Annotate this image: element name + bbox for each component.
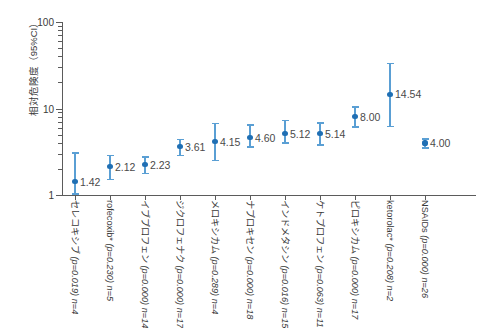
- x-axis-line: [62, 195, 476, 196]
- data-point-value-label: 8.00: [360, 111, 380, 123]
- data-point-marker: [142, 162, 147, 167]
- x-category-name: NSAIDs: [420, 200, 430, 233]
- data-point-group: 5.12: [279, 22, 291, 195]
- error-bar-cap-upper: [247, 124, 254, 125]
- data-point-value-label: 2.12: [115, 161, 135, 173]
- data-point-value-label: 4.15: [220, 136, 240, 148]
- data-point-value-label: 4.60: [255, 132, 275, 144]
- y-tick-minor: [58, 30, 62, 31]
- error-bar-cap-upper: [387, 63, 394, 64]
- error-bar-cap-lower: [72, 193, 79, 194]
- data-point-group: 8.00: [349, 22, 361, 195]
- x-category-label: インドメタシン (p=0.016) n=15: [279, 200, 289, 310]
- x-category-stats: (p=0.016) n=15: [280, 263, 290, 328]
- y-tick-minor: [58, 82, 62, 83]
- data-point-value-label: 2.23: [150, 159, 170, 171]
- data-point-value-label: 3.61: [185, 141, 205, 153]
- error-bar-cap-upper: [212, 123, 219, 124]
- data-point-group: 5.14: [314, 22, 326, 195]
- error-bar-line: [74, 152, 75, 193]
- error-bar-cap-upper: [317, 122, 324, 123]
- x-category-name: メロキシカム: [210, 200, 220, 254]
- x-category-stats: (p=0.000) n=17: [175, 263, 185, 328]
- y-tick-label: 10: [43, 103, 54, 114]
- data-point-group: 4.15: [209, 22, 221, 195]
- x-category-label: NSAIDs (p=0.000) n=26: [419, 200, 429, 310]
- x-category-name: インドメタシン: [280, 200, 290, 263]
- x-category-stats: (p=0.208) n=2: [385, 241, 395, 301]
- data-point-value-label: 14.54: [395, 88, 421, 100]
- y-tick-minor: [58, 154, 62, 155]
- y-tick-minor: [58, 35, 62, 36]
- x-category-label: ketorolac* (p=0.208) n=2: [384, 200, 394, 310]
- data-point-value-label: 4.00: [430, 137, 450, 149]
- x-category-label: ジクロフェナク (p=0.000) n=17: [174, 200, 184, 310]
- error-bar-cap-upper: [107, 155, 114, 156]
- error-bar-cap-lower: [247, 146, 254, 147]
- data-point-marker: [352, 114, 357, 119]
- data-point-value-label: 1.42: [80, 176, 100, 188]
- data-point-marker: [107, 164, 112, 169]
- x-category-name: イブプロフェン: [140, 200, 150, 263]
- error-bar-cap-lower: [282, 142, 289, 143]
- y-tick-minor: [58, 169, 62, 170]
- x-category-label: メロキシカム (p=0.289) n=4: [209, 200, 219, 310]
- error-bar-cap-upper: [142, 156, 149, 157]
- data-point-marker: [387, 92, 392, 97]
- error-bar-cap-lower: [142, 173, 149, 174]
- y-tick-minor: [58, 41, 62, 42]
- x-category-stats: (p=0.289) n=4: [210, 254, 220, 314]
- y-tick-minor: [58, 48, 62, 49]
- data-point-group: 2.12: [104, 22, 116, 195]
- y-tick-minor: [58, 135, 62, 136]
- error-bar-cap-lower: [422, 147, 429, 148]
- y-tick-minor: [58, 67, 62, 68]
- data-point-group: 3.61: [174, 22, 186, 195]
- x-category-stats: (p=0.000) n=17: [350, 254, 360, 319]
- x-category-stats: (p=0.000) n=14: [140, 263, 150, 328]
- x-category-stats: (p=0.000) n=18: [245, 254, 255, 319]
- data-point-marker: [422, 140, 427, 145]
- data-point-marker: [317, 131, 322, 136]
- data-point-marker: [282, 131, 287, 136]
- y-tick-minor: [58, 122, 62, 123]
- error-bar-cap-upper: [282, 120, 289, 121]
- x-category-name: ナプロキセン: [245, 200, 255, 254]
- data-point-marker: [72, 179, 77, 184]
- error-bar-cap-lower: [317, 144, 324, 145]
- y-tick-minor: [58, 26, 62, 27]
- x-category-label: イブプロフェン (p=0.000) n=14: [139, 200, 149, 310]
- x-category-label: セレコキシブ (p=0.019) n=4: [69, 200, 79, 310]
- error-bar-cap-lower: [387, 126, 394, 127]
- y-tick-label: 100: [37, 17, 54, 28]
- error-bar-cap-lower: [352, 126, 359, 127]
- y-tick-minor: [58, 112, 62, 113]
- y-tick-minor: [58, 56, 62, 57]
- error-bar-cap-lower: [177, 155, 184, 156]
- data-point-marker: [212, 139, 217, 144]
- error-bar-cap-upper: [72, 152, 79, 153]
- data-point-group: 2.23: [139, 22, 151, 195]
- data-point-value-label: 5.12: [290, 128, 310, 140]
- x-category-stats: (p=0.000) n=26: [420, 233, 430, 298]
- data-point-value-label: 5.14: [325, 128, 345, 140]
- x-category-name: ピロキシカム: [350, 200, 360, 254]
- data-point-marker: [247, 135, 252, 140]
- y-tick-major: [56, 195, 62, 196]
- x-category-label: ケトプロフェン (p=0.063) n=11: [314, 200, 324, 310]
- x-category-label: ナプロキセン (p=0.000) n=18: [244, 200, 254, 310]
- x-category-name: rofecoxib*: [105, 200, 115, 241]
- x-category-stats: (p=0.019) n=4: [70, 254, 80, 314]
- y-tick-major: [56, 22, 62, 23]
- data-point-group: 4.60: [244, 22, 256, 195]
- x-category-name: ジクロフェナク: [175, 200, 185, 263]
- x-category-label: rofecoxib* (p=0.230) n=5: [104, 200, 114, 310]
- data-point-marker: [177, 144, 182, 149]
- y-tick-major: [56, 109, 62, 110]
- y-tick-label: 1: [48, 190, 54, 201]
- x-category-stats: (p=0.063) n=11: [315, 263, 325, 328]
- x-category-name: セレコキシブ: [70, 200, 80, 254]
- x-category-label: ピロキシカム (p=0.000) n=17: [349, 200, 359, 310]
- error-bar-cap-upper: [177, 139, 184, 140]
